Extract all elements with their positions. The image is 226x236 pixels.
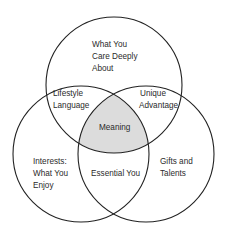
- label-lifestyle-language: Lifestyle Language: [53, 89, 90, 110]
- label-meaning: Meaning: [99, 123, 131, 132]
- label-unique-advantage: Unique Advantage: [139, 89, 179, 110]
- label-gifts-talents: Gifts and Talents: [160, 157, 195, 178]
- label-interests: Interests: What You Enjoy: [33, 157, 70, 190]
- venn-diagram: What You Care Deeply About Lifestyle Lan…: [0, 0, 226, 236]
- label-essential-you: Essential You: [91, 169, 141, 178]
- label-care-deeply: What You Care Deeply About: [92, 40, 140, 73]
